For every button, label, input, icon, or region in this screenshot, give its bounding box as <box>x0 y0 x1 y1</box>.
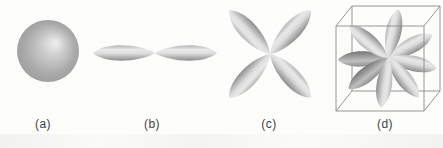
sphere-shape <box>17 20 79 82</box>
clover-lower-right-lobe <box>263 48 317 104</box>
dumbbell-left-lobe <box>93 45 155 60</box>
dumbbell-orbital-figure <box>88 36 222 72</box>
orbital-shapes-figure: (a) (b) (c) (d) <box>0 0 443 148</box>
sphere-orbital-figure <box>8 12 88 92</box>
panel-label-c: (c) <box>249 117 289 131</box>
panel-label-a: (a) <box>23 117 63 131</box>
cube-orbital-figure <box>330 0 443 118</box>
panel-label-d: (d) <box>365 117 405 131</box>
clover-upper-right-lobe <box>263 4 317 60</box>
dumbbell-right-lobe <box>155 45 217 60</box>
panel-label-b: (b) <box>132 117 172 131</box>
scan-noise-strip <box>0 134 443 148</box>
clover-orbital-figure <box>222 2 318 106</box>
clover-lower-left-lobe <box>222 48 276 104</box>
clover-upper-left-lobe <box>222 4 276 60</box>
